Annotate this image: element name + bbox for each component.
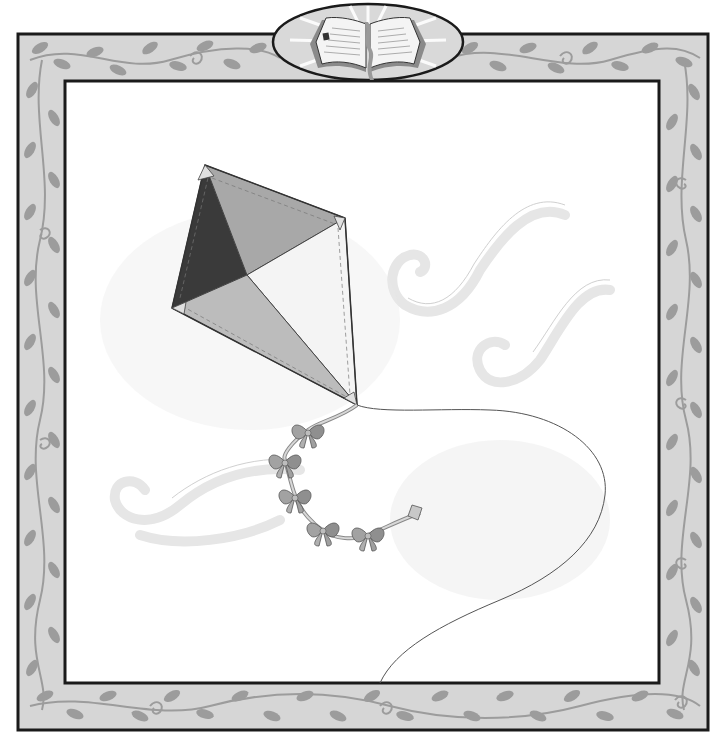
sky-wash-2 bbox=[390, 440, 610, 600]
illustration-canvas bbox=[0, 0, 725, 748]
open-book-icon bbox=[273, 4, 463, 80]
